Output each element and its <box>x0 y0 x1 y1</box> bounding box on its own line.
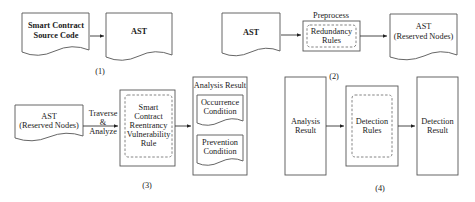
workflow-diagram: Smart Contract Source Code AST (1) AST P… <box>0 0 475 202</box>
ast-document <box>106 13 172 60</box>
traverse-label: Traverse <box>89 109 118 118</box>
redundancy-label-2: Rules <box>322 36 341 45</box>
occurrence-label-2: Condition <box>203 107 237 116</box>
reserved-ast3-label-1: AST <box>41 112 57 121</box>
panel-2-label: (2) <box>329 72 339 81</box>
ast-label: AST <box>131 27 148 36</box>
redundancy-label-1: Redundancy <box>311 27 353 36</box>
prevention-label-1: Prevention <box>202 138 239 147</box>
reserved-ast-label-1: AST <box>416 22 432 31</box>
panel-1-label: (1) <box>95 67 105 76</box>
rule-label-1: Smart <box>139 103 160 112</box>
preprocess-label: Preprocess <box>313 11 349 20</box>
rule-label-3: Reentrancy <box>130 121 169 130</box>
detection-rules-label-2: Rules <box>363 126 382 135</box>
analysis-result-label-2: Result <box>295 126 317 135</box>
source-code-label-2: Source Code <box>34 31 79 40</box>
analysis-result-title: Analysis Result <box>194 81 247 90</box>
rule-label-4: Vulnerability <box>127 130 172 139</box>
prevention-label-2: Condition <box>203 147 237 156</box>
reserved-ast3-label-2: (Reserved Nodes) <box>19 121 79 130</box>
panel-1: Smart Contract Source Code AST (1) <box>22 13 172 76</box>
detection-result-label-2: Result <box>427 126 449 135</box>
panel-4: Analysis Result Detection Rules Detectio… <box>285 77 458 193</box>
panel-3-label: (3) <box>142 181 152 190</box>
rule-label-5: Rule <box>141 139 157 148</box>
occurrence-label-1: Occurrence <box>201 98 240 107</box>
ast-label-2: AST <box>243 28 260 37</box>
panel-2: AST Preprocess Redundancy Rules AST (Res… <box>222 11 457 81</box>
analysis-result-label-1: Analysis <box>291 117 320 126</box>
panel-3: AST (Reserved Nodes) Traverse & Analyze … <box>15 77 247 190</box>
detection-result-label-1: Detection <box>421 117 454 126</box>
reserved-ast-label-2: (Reserved Nodes) <box>394 32 454 41</box>
panel-4-label: (4) <box>375 184 385 193</box>
source-code-label-1: Smart Contract <box>28 21 84 30</box>
analyze-label: Analyze <box>89 127 117 136</box>
detection-rules-label-1: Detection <box>356 117 389 126</box>
rule-label-2: Contract <box>134 112 163 121</box>
